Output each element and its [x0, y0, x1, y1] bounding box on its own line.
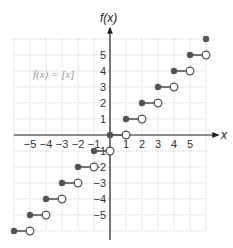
x-tick-label: 1: [123, 138, 129, 150]
open-endpoint: [170, 83, 178, 91]
step-segment: [27, 211, 50, 219]
step-segment: [107, 131, 130, 139]
step-segment: [203, 36, 209, 42]
step-segment: [123, 115, 146, 123]
y-tick-label: 2: [100, 97, 106, 109]
x-tick-label: −2: [72, 138, 85, 150]
x-tick-label: −4: [40, 138, 53, 150]
closed-endpoint: [187, 52, 193, 58]
step-function-chart: −5−4−3−2−11234554321−1−2−3−4−5 x f(x) f(…: [0, 0, 233, 248]
y-tick-label: 4: [100, 65, 106, 77]
step-segment: [171, 67, 194, 75]
open-endpoint: [122, 131, 130, 139]
closed-endpoint: [203, 36, 209, 42]
step-segment: [187, 51, 210, 59]
y-tick-label: 3: [100, 81, 106, 93]
x-tick-label: −5: [24, 138, 37, 150]
open-endpoint: [90, 163, 98, 171]
step-segment: [139, 99, 162, 107]
closed-endpoint: [11, 228, 17, 234]
step-segment: [11, 227, 34, 235]
x-tick-label: 4: [171, 138, 177, 150]
step-segment: [75, 163, 98, 171]
closed-endpoint: [155, 84, 161, 90]
closed-endpoint: [171, 68, 177, 74]
y-tick-label: 5: [100, 49, 106, 61]
closed-endpoint: [91, 148, 97, 154]
step-segment: [155, 83, 178, 91]
closed-endpoint: [59, 180, 65, 186]
open-endpoint: [106, 147, 114, 155]
closed-endpoint: [27, 212, 33, 218]
axes: [14, 28, 218, 240]
x-tick-label: 3: [155, 138, 161, 150]
open-endpoint: [42, 211, 50, 219]
x-tick-label: 5: [187, 138, 193, 150]
open-endpoint: [154, 99, 162, 107]
step-segment: [43, 195, 66, 203]
y-axis-label: f(x): [100, 11, 117, 25]
x-tick-label: 2: [139, 138, 145, 150]
open-endpoint: [58, 195, 66, 203]
closed-endpoint: [43, 196, 49, 202]
closed-endpoint: [75, 164, 81, 170]
x-axis-label: x: [220, 128, 228, 142]
y-tick-label: −3: [93, 177, 106, 189]
open-endpoint: [202, 51, 210, 59]
x-tick-label: −3: [56, 138, 69, 150]
y-tick-label: −5: [93, 209, 106, 221]
y-tick-label: −4: [93, 193, 106, 205]
open-endpoint: [186, 67, 194, 75]
open-endpoint: [74, 179, 82, 187]
closed-endpoint: [107, 132, 113, 138]
closed-endpoint: [139, 100, 145, 106]
open-endpoint: [26, 227, 34, 235]
closed-endpoint: [123, 116, 129, 122]
y-tick-label: 1: [100, 113, 106, 125]
step-segment: [59, 179, 82, 187]
open-endpoint: [138, 115, 146, 123]
function-label: f(x) = [x]: [33, 68, 75, 81]
